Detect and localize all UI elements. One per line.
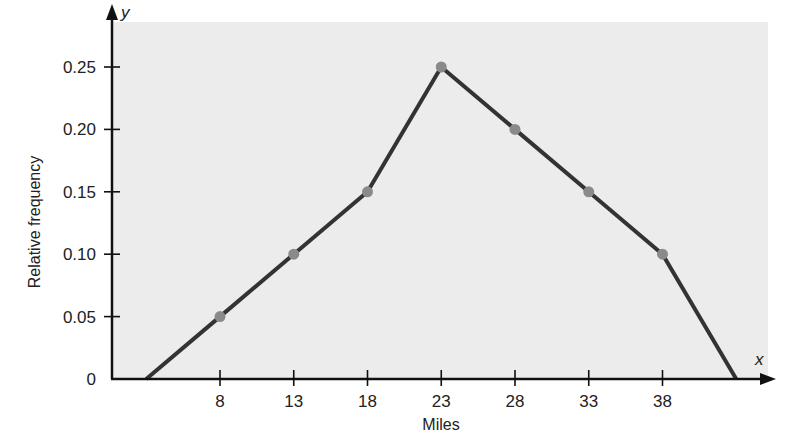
data-point-marker [583, 186, 594, 197]
y-axis-variable: y [120, 3, 131, 22]
y-tick-label: 0.20 [63, 120, 96, 139]
x-tick-label: 38 [653, 392, 672, 411]
x-axis-label: Miles [422, 416, 459, 433]
y-tick-label: 0 [87, 370, 96, 389]
data-point-marker [288, 249, 299, 260]
y-tick-label: 0.10 [63, 245, 96, 264]
data-point-marker [362, 186, 373, 197]
y-tick-label: 0.05 [63, 308, 96, 327]
y-tick-label: 0.25 [63, 58, 96, 77]
x-axis-variable: x [754, 350, 764, 369]
y-tick-label: 0.15 [63, 183, 96, 202]
data-point-marker [436, 62, 447, 73]
x-tick-label: 28 [506, 392, 525, 411]
x-tick-label: 33 [579, 392, 598, 411]
x-tick-label: 23 [432, 392, 451, 411]
frequency-polygon-chart: 00.050.100.150.200.25 8131823283338 y x … [0, 0, 794, 443]
x-tick-label: 8 [215, 392, 224, 411]
data-point-marker [510, 124, 521, 135]
y-axis-arrow-icon [106, 4, 118, 20]
x-tick-label: 13 [284, 392, 303, 411]
data-point-marker [657, 249, 668, 260]
data-point-marker [215, 311, 226, 322]
x-tick-label: 18 [358, 392, 377, 411]
y-axis-label: Relative frequency [26, 156, 43, 289]
